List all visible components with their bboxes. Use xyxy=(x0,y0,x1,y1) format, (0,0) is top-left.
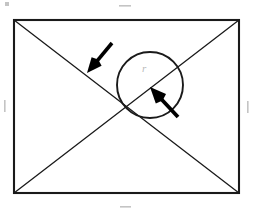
edge-mark-top xyxy=(119,5,131,7)
edge-mark-right xyxy=(247,101,249,113)
faint-edge-marks xyxy=(4,2,249,208)
edge-mark-corner-top-left xyxy=(5,2,9,6)
edge-mark-bottom xyxy=(120,206,131,208)
diagonals-group xyxy=(14,20,239,193)
arrow-lower-right xyxy=(150,87,178,117)
geometry-figure: r xyxy=(0,0,254,213)
inscribed-circle xyxy=(117,52,183,118)
circle-group: r xyxy=(117,52,183,118)
arrows-group xyxy=(87,43,178,117)
arrow-upper-left xyxy=(87,43,112,73)
edge-mark-left xyxy=(4,100,6,112)
radius-label: r xyxy=(142,62,147,74)
diagram-canvas: r xyxy=(0,0,254,213)
